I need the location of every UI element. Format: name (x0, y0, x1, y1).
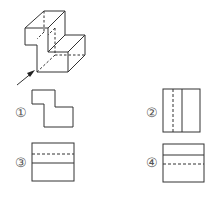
option-1-label[interactable]: ① (15, 106, 27, 120)
diagram-canvas (0, 0, 224, 197)
option-2-shape (163, 89, 200, 132)
option-4-shape (163, 144, 204, 182)
option-1-shape (32, 90, 73, 127)
option-3-label[interactable]: ③ (15, 156, 27, 170)
option-2-label[interactable]: ② (146, 106, 158, 120)
option-3-shape (32, 143, 74, 181)
view-arrow-icon (17, 70, 35, 85)
3d-solid (25, 11, 85, 72)
option-4-label[interactable]: ④ (146, 156, 158, 170)
